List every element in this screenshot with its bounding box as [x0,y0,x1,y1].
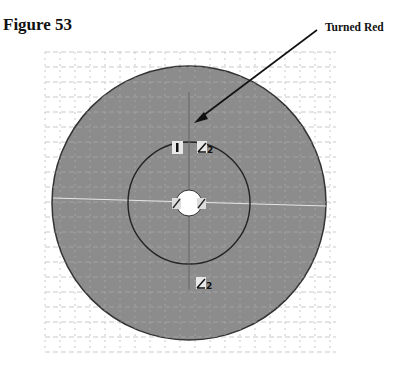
sketch-canvas[interactable]: 2 2 [0,0,405,373]
svg-text:2: 2 [207,145,213,155]
svg-text:2: 2 [206,281,212,291]
tangent-constraint-icon[interactable] [197,198,206,209]
tangent-constraint-icon[interactable] [172,198,181,209]
vertical-bar-glyph [176,143,179,152]
